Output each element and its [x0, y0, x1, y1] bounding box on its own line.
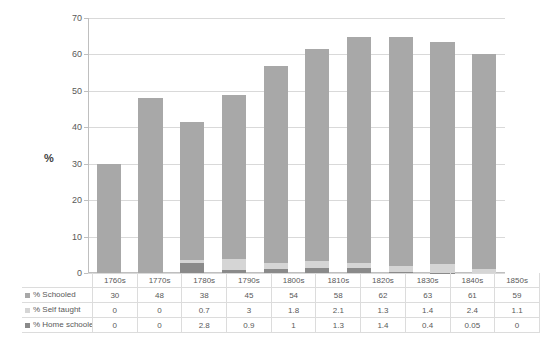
- legend-swatch-icon: [25, 308, 30, 313]
- table-cell: 1.1: [495, 303, 540, 318]
- table-column-header: 1840s: [450, 273, 495, 288]
- table-cell: 1.3: [316, 318, 361, 333]
- y-axis-tick-label: 40: [72, 122, 82, 132]
- y-axis-tick-label: 10: [72, 232, 82, 242]
- y-axis-tick-label: 20: [72, 195, 82, 205]
- bar-slot: [463, 18, 505, 273]
- legend-swatch-icon: [25, 323, 30, 328]
- legend-label: % Home schooled: [33, 321, 93, 330]
- legend-label: % Self taught: [33, 306, 81, 315]
- bar-segment-schooled[interactable]: [138, 98, 162, 273]
- bar-segment-schooled[interactable]: [430, 42, 454, 264]
- table-row: % Self taught000.731.82.11.31.42.41.1: [22, 303, 539, 318]
- table-column-header: 1820s: [361, 273, 406, 288]
- table-cell: 1.3: [361, 303, 406, 318]
- bar-slot: [297, 18, 339, 273]
- data-table-wrap: 1760s1770s1780s1790s1800s1810s1820s1830s…: [22, 273, 505, 333]
- table-cell: 0: [495, 318, 540, 333]
- table-cell: 59: [495, 288, 540, 303]
- table-row-label: % Self taught: [22, 303, 93, 318]
- table-cell: 63: [405, 288, 450, 303]
- table-column-header: 1850s: [495, 273, 540, 288]
- legend-swatch-icon: [25, 293, 30, 298]
- table-cell: 1: [271, 318, 316, 333]
- table-cell: 2.4: [450, 303, 495, 318]
- bar-stack[interactable]: [472, 54, 496, 273]
- bar-segment-schooled[interactable]: [180, 122, 204, 260]
- bar-slot: [130, 18, 172, 273]
- bar-segment-schooled[interactable]: [389, 37, 413, 267]
- bar-stack[interactable]: [264, 66, 288, 273]
- bar-segment-self-taught[interactable]: [222, 259, 246, 270]
- bar-slot: [338, 18, 380, 273]
- table-row-label: % Home schooled: [22, 318, 93, 333]
- bar-stack[interactable]: [222, 95, 246, 273]
- table-corner-cell: [22, 273, 93, 288]
- bar-slot: [255, 18, 297, 273]
- bar-slot: [213, 18, 255, 273]
- y-axis-tick-label: 60: [72, 49, 82, 59]
- table-column-header: 1760s: [93, 273, 138, 288]
- bar-segment-self-taught[interactable]: [430, 264, 454, 273]
- table-row-label: % Schooled: [22, 288, 93, 303]
- bar-segment-schooled[interactable]: [264, 66, 288, 263]
- table-cell: 0.4: [405, 318, 450, 333]
- bar-segment-schooled[interactable]: [222, 95, 246, 259]
- y-axis-title: %: [44, 152, 54, 164]
- data-table: 1760s1770s1780s1790s1800s1810s1820s1830s…: [22, 273, 540, 333]
- table-cell: 1.4: [361, 318, 406, 333]
- table-cell: 1.4: [405, 303, 450, 318]
- table-cell: 0: [137, 303, 182, 318]
- table-cell: 0: [93, 303, 138, 318]
- table-column-header: 1830s: [405, 273, 450, 288]
- bar-stack[interactable]: [138, 98, 162, 273]
- table-cell: 48: [137, 288, 182, 303]
- bar-slot: [171, 18, 213, 273]
- table-cell: 30: [93, 288, 138, 303]
- y-axis-tick-label: 30: [72, 159, 82, 169]
- table-column-header: 1800s: [271, 273, 316, 288]
- plot-area: 010203040506070: [88, 18, 505, 273]
- bar-stack[interactable]: [305, 49, 329, 273]
- bar-stack[interactable]: [389, 37, 413, 273]
- table-cell: 0: [137, 318, 182, 333]
- table-cell: 54: [271, 288, 316, 303]
- bar-slot: [88, 18, 130, 273]
- bar-stack[interactable]: [430, 42, 454, 273]
- table-header-row: 1760s1770s1780s1790s1800s1810s1820s1830s…: [22, 273, 539, 288]
- table-cell: 3: [227, 303, 272, 318]
- bar-segment-schooled[interactable]: [305, 49, 329, 260]
- table-cell: 1.8: [271, 303, 316, 318]
- bar-segment-schooled[interactable]: [97, 164, 121, 273]
- table-cell: 45: [227, 288, 272, 303]
- bar-segment-schooled[interactable]: [472, 54, 496, 269]
- table-cell: 0: [93, 318, 138, 333]
- y-axis-tick-label: 50: [72, 86, 82, 96]
- table-cell: 0.05: [450, 318, 495, 333]
- bar-slot: [380, 18, 422, 273]
- table-column-header: 1780s: [182, 273, 227, 288]
- table-cell: 58: [316, 288, 361, 303]
- table-column-header: 1810s: [316, 273, 361, 288]
- table-cell: 61: [450, 288, 495, 303]
- bar-stack[interactable]: [180, 122, 204, 273]
- bar-stack[interactable]: [347, 37, 371, 273]
- table-row: % Home schooled002.80.911.31.40.40.050: [22, 318, 539, 333]
- table-cell: 2.8: [182, 318, 227, 333]
- table-column-header: 1790s: [227, 273, 272, 288]
- table-row: % Schooled30483845545862636159: [22, 288, 539, 303]
- bar-segment-home-schooled[interactable]: [180, 263, 204, 273]
- table-cell: 0.9: [227, 318, 272, 333]
- bar-slot: [422, 18, 464, 273]
- y-axis-tick-label: 70: [72, 13, 82, 23]
- table-column-header: 1770s: [137, 273, 182, 288]
- bar-segment-schooled[interactable]: [347, 37, 371, 263]
- table-cell: 2.1: [316, 303, 361, 318]
- legend-label: % Schooled: [33, 291, 76, 300]
- table-cell: 38: [182, 288, 227, 303]
- bar-stack[interactable]: [97, 164, 121, 273]
- table-cell: 0.7: [182, 303, 227, 318]
- table-cell: 62: [361, 288, 406, 303]
- bar-segment-self-taught[interactable]: [305, 261, 329, 269]
